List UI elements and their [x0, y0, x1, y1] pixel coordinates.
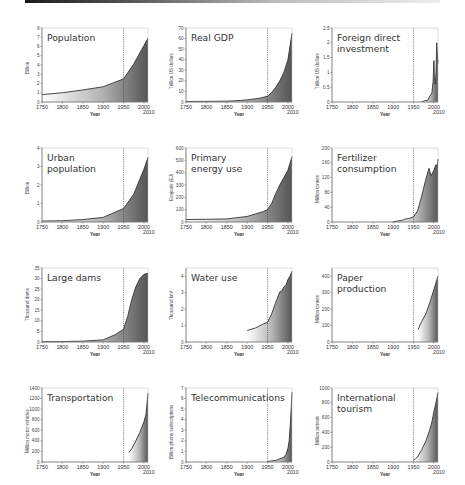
x-axis-label: Year	[380, 112, 390, 117]
x-tick-label: 1850	[77, 104, 89, 110]
end-year-label: 2010	[287, 349, 299, 355]
y-tick-label: 6	[181, 396, 184, 401]
x-tick-label: 1800	[200, 344, 212, 350]
y-tick-label: 600	[322, 415, 330, 420]
x-tick-label: 1850	[77, 224, 89, 230]
x-tick-label: 1900	[241, 224, 253, 230]
end-year-label: 2010	[287, 229, 299, 235]
y-tick-label: 1200	[29, 396, 40, 401]
y-tick-label: 20	[34, 297, 40, 302]
x-tick-label: 1800	[346, 344, 358, 350]
y-tick-label: 0.5	[323, 85, 330, 90]
x-tick-label: 1750	[326, 224, 338, 230]
y-tick-label: 2.5	[323, 26, 330, 31]
end-year-label: 2010	[143, 109, 155, 115]
y-tick-label: 1	[327, 70, 330, 75]
y-tick-label: 3	[181, 428, 184, 433]
x-axis-label: Year	[234, 112, 244, 117]
y-tick-label: 3	[181, 290, 184, 295]
y-tick-label: 4	[181, 274, 184, 279]
y-tick-label: 2	[181, 438, 184, 443]
end-year-label: 2010	[433, 109, 445, 115]
x-tick-label: 1950	[408, 104, 420, 110]
y-tick-label: 7	[37, 35, 40, 40]
chart-panel-urban-population: 01234175018001850190019502000Urban popul…	[12, 140, 157, 260]
end-year-label: 2010	[143, 229, 155, 235]
y-tick-label: 4	[37, 63, 40, 68]
y-tick-label: 1	[37, 201, 40, 206]
x-tick-label: 1750	[180, 224, 192, 230]
x-tick-label: 1850	[367, 344, 379, 350]
x-tick-label: 1750	[36, 344, 48, 350]
chart-panel-fertilizer-consumption: 04080120160200175018001850190019502000Fe…	[302, 140, 447, 260]
y-tick-label: 600	[32, 428, 40, 433]
x-tick-label: 1750	[36, 224, 48, 230]
y-tick-label: 80	[324, 190, 330, 195]
y-tick-label: 10	[34, 318, 40, 323]
y-tick-label: 400	[322, 274, 330, 279]
y-tick-label: 5	[37, 329, 40, 334]
chart-panel-transportation: 0200400600800100012001400175018001850190…	[12, 380, 157, 485]
y-tick-label: 600	[176, 146, 184, 151]
y-tick-label: 200	[322, 445, 330, 450]
plot-frame	[332, 28, 438, 102]
y-tick-label: 3	[37, 164, 40, 169]
x-tick-label: 1850	[367, 464, 379, 470]
x-tick-label: 1950	[408, 344, 420, 350]
x-tick-label: 1950	[262, 344, 274, 350]
x-tick-label: 1800	[346, 104, 358, 110]
x-axis-label: Year	[90, 352, 100, 357]
x-tick-label: 1900	[387, 344, 399, 350]
x-tick-label: 1850	[221, 344, 233, 350]
area-fill	[393, 159, 438, 222]
axes	[332, 28, 438, 102]
y-tick-label: 3	[37, 72, 40, 77]
x-tick-label: 1750	[326, 344, 338, 350]
area-fill	[42, 157, 148, 222]
chart-panel-water-use: 01234175018001850190019502000Water useTh…	[156, 260, 301, 380]
x-axis-label: Year	[380, 352, 390, 357]
y-tick-label: 30	[178, 68, 184, 73]
x-axis-label: Year	[234, 232, 244, 237]
x-tick-label: 1850	[77, 464, 89, 470]
x-tick-label: 1900	[97, 344, 109, 350]
x-tick-label: 1900	[387, 104, 399, 110]
y-axis-label: Trillion US dollars	[315, 53, 320, 89]
y-tick-label: 200	[176, 195, 184, 200]
x-tick-label: 1950	[262, 464, 274, 470]
x-tick-label: 1950	[118, 464, 130, 470]
top-rule	[25, 0, 440, 3]
area-fill	[129, 393, 148, 462]
end-year-label: 2010	[287, 469, 299, 475]
x-tick-label: 1850	[367, 224, 379, 230]
x-tick-label: 1900	[387, 464, 399, 470]
y-axis-label: Exajoule (EJ)	[169, 174, 174, 201]
y-tick-label: 1.5	[323, 55, 330, 60]
x-tick-label: 1900	[97, 464, 109, 470]
x-tick-label: 1950	[408, 464, 420, 470]
y-tick-label: 5	[37, 53, 40, 58]
x-tick-label: 1900	[241, 344, 253, 350]
x-axis-label: Year	[90, 112, 100, 117]
x-tick-label: 1800	[346, 224, 358, 230]
x-tick-label: 1800	[56, 104, 68, 110]
end-year-label: 2010	[143, 349, 155, 355]
x-tick-label: 1800	[56, 224, 68, 230]
y-tick-label: 1400	[29, 386, 40, 391]
x-tick-label: 1750	[36, 104, 48, 110]
x-tick-label: 1850	[77, 344, 89, 350]
end-year-label: 2010	[433, 229, 445, 235]
y-axis-label: Billion	[25, 61, 30, 73]
x-axis-label: Year	[380, 232, 390, 237]
y-axis-label: Trillion US dollars	[169, 53, 174, 89]
y-axis-label: Million arrivals	[315, 416, 320, 445]
y-tick-label: 120	[322, 175, 330, 180]
x-axis-label: Year	[234, 352, 244, 357]
end-year-label: 2010	[433, 349, 445, 355]
plot-frame	[186, 388, 292, 462]
x-tick-label: 1800	[200, 224, 212, 230]
x-tick-label: 1750	[180, 104, 192, 110]
x-tick-label: 1750	[326, 104, 338, 110]
y-tick-label: 1000	[29, 407, 40, 412]
y-tick-label: 1000	[319, 386, 330, 391]
